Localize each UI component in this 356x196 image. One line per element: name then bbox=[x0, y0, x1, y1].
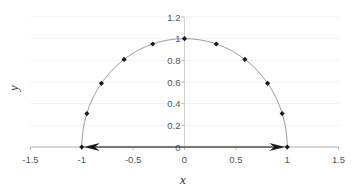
arrow bbox=[84, 143, 185, 151]
y-axis-label: y bbox=[6, 85, 21, 93]
y-tick-label: 0.8 bbox=[167, 55, 180, 66]
y-tick-label: 0.6 bbox=[167, 77, 180, 88]
semicircle-chart: 00.20.40.60.811.2 -1.5-1-0.500.511.5 x y bbox=[0, 0, 356, 196]
data-point bbox=[79, 144, 84, 149]
data-point bbox=[182, 36, 187, 41]
data-point bbox=[150, 41, 155, 46]
data-point bbox=[280, 111, 285, 116]
x-axis-label: x bbox=[179, 172, 186, 187]
y-tick-labels: 00.20.40.60.811.2 bbox=[167, 12, 180, 153]
x-tick-label: -1.5 bbox=[22, 154, 38, 165]
x-tick-label: 1.5 bbox=[332, 154, 345, 165]
arrow bbox=[185, 143, 286, 151]
x-tick-label: 0.5 bbox=[229, 154, 242, 165]
data-point bbox=[214, 41, 219, 46]
x-tick-label: -0.5 bbox=[125, 154, 141, 165]
y-tick-label: 1.2 bbox=[167, 12, 180, 23]
y-tick-label: 0.2 bbox=[167, 120, 180, 131]
y-tick-label: 0.4 bbox=[167, 98, 180, 109]
x-tick-label: -1 bbox=[78, 154, 86, 165]
x-tick-label: 0 bbox=[182, 154, 187, 165]
x-tick-labels: -1.5-1-0.500.511.5 bbox=[22, 154, 345, 165]
data-point bbox=[84, 111, 89, 116]
x-tick-label: 1 bbox=[285, 154, 290, 165]
data-point bbox=[285, 144, 290, 149]
